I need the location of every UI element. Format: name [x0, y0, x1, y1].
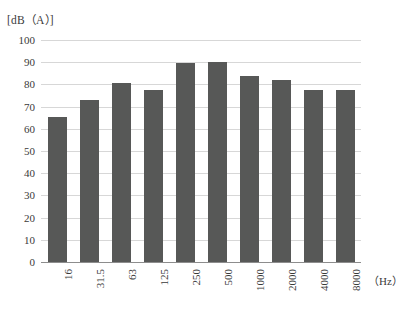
x-tick-label: 16: [62, 269, 74, 280]
y-axis-title: [dB（A）]: [7, 11, 54, 27]
y-tick-label: 30: [24, 189, 35, 201]
bar: [176, 63, 195, 262]
bar: [336, 90, 355, 262]
bar: [304, 90, 323, 262]
bar: [240, 76, 259, 262]
y-tick-label: 60: [24, 123, 35, 135]
x-tick-label: 1000: [254, 269, 266, 291]
x-tick-label: 31.5: [94, 269, 106, 288]
bar-chart-figure: [dB（A）] 1009080706050403020100 1631.5631…: [0, 0, 410, 312]
y-tick-label: 80: [24, 78, 35, 90]
bar: [208, 62, 227, 262]
x-tick-label: 63: [126, 269, 138, 280]
x-tick-label: 8000: [350, 269, 362, 291]
x-tick-label: 2000: [286, 269, 298, 291]
x-tick-label: 125: [158, 269, 170, 286]
x-axis-unit-label: （Hz）: [368, 272, 403, 288]
y-tick-label: 10: [24, 234, 35, 246]
y-tick-label: 20: [24, 212, 35, 224]
y-tick-label: 50: [24, 145, 35, 157]
y-tick-label: 0: [30, 256, 36, 268]
y-tick-label: 100: [19, 34, 36, 46]
x-tick-label: 4000: [318, 269, 330, 291]
bar: [112, 83, 131, 262]
y-tick-label: 40: [24, 167, 35, 179]
y-tick-label: 90: [24, 56, 35, 68]
bar: [272, 80, 291, 262]
bar: [144, 90, 163, 262]
bar: [48, 117, 67, 262]
x-tick-label: 250: [190, 269, 202, 286]
axis-baseline: [41, 262, 361, 263]
plot-area: 1009080706050403020100 1631.563125250500…: [41, 40, 361, 262]
bar: [80, 100, 99, 262]
x-tick-label: 500: [222, 269, 234, 286]
bars-group: [41, 40, 361, 262]
y-tick-label: 70: [24, 101, 35, 113]
